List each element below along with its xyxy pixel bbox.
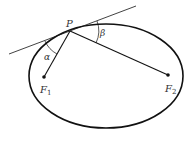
label-beta: β: [99, 28, 105, 38]
tangent-line: [9, 6, 136, 54]
label-p: P: [65, 18, 73, 29]
ellipse-diagram: P α β F 1 F 2: [0, 0, 194, 143]
focus2-point: [166, 73, 170, 77]
segment-p-f2: [70, 31, 168, 75]
focus1-point: [42, 75, 46, 79]
label-f2-sub: 2: [172, 88, 176, 96]
label-alpha: α: [44, 52, 50, 62]
ellipse: [29, 24, 183, 128]
label-f1-sub: 1: [47, 89, 51, 97]
